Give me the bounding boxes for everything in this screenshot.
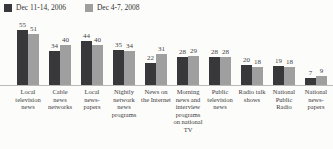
bar-wrap: 40 bbox=[92, 36, 103, 85]
bar-wrap: 28 bbox=[177, 48, 188, 85]
bar bbox=[60, 45, 71, 85]
bar-value-label: 20 bbox=[243, 56, 250, 64]
bar-pair: 2828 bbox=[209, 48, 231, 85]
bar-wrap: 31 bbox=[156, 45, 167, 85]
bar bbox=[49, 51, 60, 85]
bar-wrap: 51 bbox=[28, 25, 39, 85]
bar-value-label: 31 bbox=[158, 45, 165, 53]
bar-pair: 3534 bbox=[113, 41, 135, 85]
bar-wrap: 18 bbox=[284, 58, 295, 85]
bar-wrap: 19 bbox=[273, 57, 284, 85]
category-label: Morning news and interview programs on n… bbox=[172, 88, 204, 133]
category-label: Public television news bbox=[204, 88, 236, 133]
bar-group: 3440 bbox=[44, 0, 76, 85]
bar-wrap: 44 bbox=[81, 32, 92, 85]
bar bbox=[92, 45, 103, 85]
bar bbox=[156, 54, 167, 85]
bar-group: 2231 bbox=[140, 0, 172, 85]
bar-value-label: 18 bbox=[254, 58, 261, 66]
bar bbox=[124, 51, 135, 85]
bar-wrap: 29 bbox=[188, 47, 199, 85]
bar bbox=[220, 57, 231, 85]
bar-group: 2018 bbox=[236, 0, 268, 85]
bar-pair: 2231 bbox=[145, 45, 167, 85]
bar-wrap: 7 bbox=[305, 69, 316, 85]
bar bbox=[17, 30, 28, 85]
bar-pair: 2829 bbox=[177, 47, 199, 85]
bar-wrap: 40 bbox=[60, 36, 71, 85]
bar-pair: 5551 bbox=[17, 21, 39, 85]
bar-wrap: 34 bbox=[124, 42, 135, 85]
bar bbox=[252, 67, 263, 85]
bar-value-label: 34 bbox=[126, 42, 133, 50]
bar-value-label: 18 bbox=[286, 58, 293, 66]
legend-swatch-2006-icon bbox=[4, 4, 12, 12]
bar bbox=[28, 34, 39, 85]
bar-value-label: 29 bbox=[190, 47, 197, 55]
bar-value-label: 28 bbox=[211, 48, 218, 56]
bar bbox=[145, 63, 156, 85]
bar bbox=[273, 66, 284, 85]
bar-wrap: 9 bbox=[316, 67, 327, 85]
category-label: News on the Internet bbox=[140, 88, 172, 133]
bar bbox=[284, 67, 295, 85]
bar-value-label: 9 bbox=[320, 67, 324, 75]
bar-group: 2829 bbox=[172, 0, 204, 85]
category-label: Radio talk shows bbox=[236, 88, 268, 133]
bar-value-label: 22 bbox=[147, 54, 154, 62]
category-axis: Local television newsCable news networks… bbox=[12, 88, 332, 133]
category-label: Local television news bbox=[12, 88, 44, 133]
bar-value-label: 34 bbox=[51, 42, 58, 50]
bar-value-label: 28 bbox=[179, 48, 186, 56]
bar-group: 4440 bbox=[76, 0, 108, 85]
bar-pair: 79 bbox=[305, 67, 327, 85]
bar-pair: 4440 bbox=[81, 32, 103, 85]
bar-wrap: 20 bbox=[241, 56, 252, 85]
bar bbox=[209, 57, 220, 85]
category-label: Nightly network news programs bbox=[108, 88, 140, 133]
bar-value-label: 40 bbox=[94, 36, 101, 44]
bar-value-label: 55 bbox=[19, 21, 26, 29]
bar-pair: 1918 bbox=[273, 57, 295, 85]
bar-value-label: 51 bbox=[30, 25, 37, 33]
bar-wrap: 22 bbox=[145, 54, 156, 85]
bar-value-label: 19 bbox=[275, 57, 282, 65]
bar-group: 2828 bbox=[204, 0, 236, 85]
category-label: National news-papers bbox=[300, 88, 332, 133]
bar-value-label: 7 bbox=[309, 69, 313, 77]
bar bbox=[316, 76, 327, 85]
bar-group: 3534 bbox=[108, 0, 140, 85]
bar-group: 5551 bbox=[12, 0, 44, 85]
bar-wrap: 28 bbox=[209, 48, 220, 85]
bar bbox=[113, 50, 124, 85]
bar-wrap: 28 bbox=[220, 48, 231, 85]
bar-value-label: 28 bbox=[222, 48, 229, 56]
bar-wrap: 34 bbox=[49, 42, 60, 85]
bar-wrap: 18 bbox=[252, 58, 263, 85]
bar bbox=[81, 41, 92, 85]
bar bbox=[241, 65, 252, 85]
x-axis-line bbox=[0, 85, 333, 86]
bar-value-label: 40 bbox=[62, 36, 69, 44]
bar bbox=[188, 56, 199, 85]
bar-chart: Dec 11-14, 2006 Dec 4-7, 2008 5551344044… bbox=[0, 0, 333, 149]
bar-wrap: 35 bbox=[113, 41, 124, 85]
bar-value-label: 44 bbox=[83, 32, 90, 40]
bar bbox=[177, 57, 188, 85]
bar-group: 79 bbox=[300, 0, 332, 85]
category-label: National Public Radio bbox=[268, 88, 300, 133]
bar-pair: 2018 bbox=[241, 56, 263, 85]
category-label: Local news-papers bbox=[76, 88, 108, 133]
bar-value-label: 35 bbox=[115, 41, 122, 49]
bar bbox=[305, 78, 316, 85]
bar-group: 1918 bbox=[268, 0, 300, 85]
bar-pair: 3440 bbox=[49, 36, 71, 85]
plot-area: 55513440444035342231282928282018191879 bbox=[12, 0, 332, 85]
bar-wrap: 55 bbox=[17, 21, 28, 85]
category-label: Cable news networks bbox=[44, 88, 76, 133]
